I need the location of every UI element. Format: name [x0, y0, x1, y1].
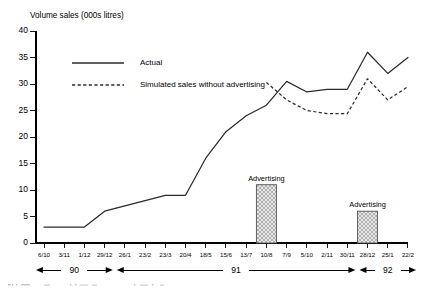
x-tick-label: 5/10: [301, 251, 314, 258]
period-label: 92: [383, 265, 393, 275]
x-tick-label: 28/12: [360, 251, 376, 258]
x-tick-label: 29/12: [97, 251, 113, 258]
x-tick-label: 18/5: [200, 251, 213, 258]
x-tick-label: 2/11: [321, 251, 333, 258]
chart-container: Volume sales (000s litres) 40 35 30 25 2…: [0, 0, 424, 292]
period-arrow-left: [359, 267, 366, 273]
period-label: 90: [70, 265, 80, 275]
clipped-footnote: [8, 284, 164, 286]
x-tick-label: 30/11: [340, 251, 356, 258]
period-arrow-left: [117, 267, 124, 273]
y-axis-ticks: 40 35 30 25 20 15 10 5 0: [19, 25, 36, 247]
x-tick-label: 20/4: [180, 251, 193, 258]
x-tick-label: 3/11: [58, 251, 70, 258]
y-tick-label: 20: [19, 131, 29, 141]
x-tick-label: 23/3: [159, 251, 172, 258]
period-arrow-right: [106, 267, 113, 273]
volume-sales-line-chart: Volume sales (000s litres) 40 35 30 25 2…: [0, 0, 424, 292]
x-tick-label: 15/6: [220, 251, 233, 258]
period-label: 91: [231, 265, 241, 275]
chart-axis-title: Volume sales (000s litres): [30, 11, 124, 20]
x-tick-label: 23/2: [139, 251, 152, 258]
x-axis-ticks: 6/103/111/1229/1226/123/223/320/418/515/…: [38, 243, 415, 258]
x-tick-label: 26/1: [119, 251, 132, 258]
period-arrow-right: [348, 267, 355, 273]
y-tick-label: 25: [19, 105, 29, 115]
y-tick-label: 15: [19, 158, 29, 168]
x-tick-label: 25/1: [382, 251, 395, 258]
y-tick-label: 0: [23, 237, 28, 247]
y-tick-label: 10: [19, 184, 29, 194]
x-tick-label: 22/2: [402, 251, 415, 258]
period-arrow-right: [409, 267, 416, 273]
period-brackets: 909192: [36, 265, 416, 275]
x-tick-label: 13/7: [240, 251, 253, 258]
x-tick-label: 1/12: [78, 251, 91, 258]
x-tick-label: 6/10: [38, 251, 51, 258]
x-tick-label: 7/9: [282, 251, 291, 258]
series-line-simulated: [266, 79, 408, 114]
legend-label-actual: Actual: [140, 58, 162, 67]
advertising-bar: [358, 211, 378, 243]
advertising-bar-label: Advertising: [248, 174, 285, 183]
y-tick-label: 40: [19, 25, 29, 35]
period-arrow-left: [36, 267, 43, 273]
advertising-bars: AdvertisingAdvertising: [248, 174, 386, 243]
chart-legend: Actual Simulated sales without advertisi…: [72, 58, 265, 89]
y-tick-label: 30: [19, 78, 29, 88]
y-tick-label: 5: [23, 211, 28, 221]
advertising-bar: [256, 185, 276, 243]
advertising-bar-label: Advertising: [349, 200, 386, 209]
x-tick-label: 10/8: [260, 251, 273, 258]
legend-label-simulated: Simulated sales without advertising: [140, 80, 265, 89]
y-tick-label: 35: [19, 52, 29, 62]
